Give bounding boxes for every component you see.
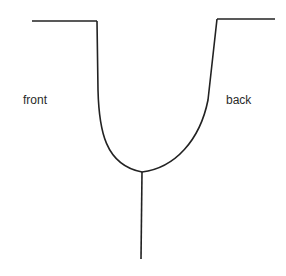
neckline-curve-drawing [0, 0, 286, 276]
center-line [141, 172, 142, 259]
front-label: front [23, 94, 47, 106]
back-label: back [226, 94, 251, 106]
neckline-curve [97, 19, 217, 172]
neckline-diagram: front back [0, 0, 286, 276]
